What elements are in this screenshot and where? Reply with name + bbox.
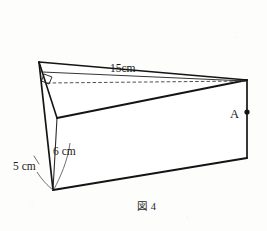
figure-page: 15cm 6 cm 5 cm A 図 4 xyxy=(0,0,267,231)
figure-caption: 図 4 xyxy=(137,202,156,213)
label-diagonal-length: 15cm xyxy=(110,63,136,75)
prism-diagram xyxy=(0,0,267,231)
point-a-dot-icon xyxy=(244,109,249,114)
label-base-edge: 5 cm xyxy=(13,161,36,173)
label-height-edge: 6 cm xyxy=(53,146,76,158)
label-point-a: A xyxy=(230,108,239,121)
